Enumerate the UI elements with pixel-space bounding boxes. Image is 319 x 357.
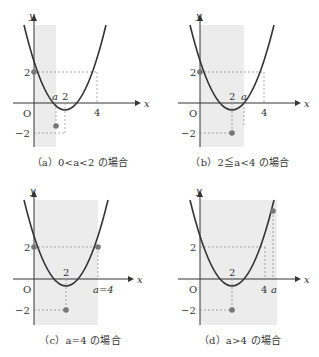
svg-text:O: O — [23, 108, 31, 119]
svg-text:4: 4 — [261, 284, 267, 295]
svg-text:4: 4 — [261, 107, 267, 118]
svg-text:2: 2 — [24, 242, 30, 253]
svg-text:2: 2 — [63, 267, 69, 278]
shaded-range — [200, 25, 244, 147]
svg-text:−2: −2 — [15, 128, 30, 139]
svg-text:O: O — [23, 284, 31, 295]
svg-text:O: O — [189, 284, 197, 295]
graph-a: y x O 2 −2 a 2 4 — [0, 0, 160, 178]
svg-text:4: 4 — [94, 107, 100, 118]
svg-text:2: 2 — [229, 267, 235, 278]
graph-c: y x O 2 −2 2 a=4 — [0, 180, 160, 357]
svg-text:y: y — [195, 10, 202, 21]
svg-text:x: x — [137, 274, 143, 285]
svg-text:y: y — [195, 185, 202, 196]
svg-text:y: y — [29, 185, 36, 196]
panel-d: y x O 2 −2 2 4 a （d）a>4 の場合 — [160, 180, 319, 357]
svg-text:a: a — [241, 91, 247, 102]
caption-b: （b）2≦a<4 の場合 — [160, 154, 319, 169]
svg-text:2: 2 — [62, 91, 68, 102]
caption-a: （a）0<a<2 の場合 — [0, 154, 160, 169]
caption-c: （c）a=4 の場合 — [0, 332, 160, 347]
svg-text:x: x — [304, 98, 310, 109]
svg-text:−2: −2 — [181, 128, 196, 139]
svg-text:−2: −2 — [15, 305, 30, 316]
svg-text:y: y — [28, 10, 35, 21]
svg-text:−2: −2 — [181, 305, 196, 316]
shaded-range — [34, 25, 56, 147]
svg-text:a=4: a=4 — [93, 284, 114, 295]
graph-d: y x O 2 −2 2 4 a — [160, 180, 319, 357]
panel-a: y x O 2 −2 a 2 4 （a）0<a<2 の場合 — [0, 0, 160, 178]
panel-b: y x O 2 −2 2 a 4 （b）2≦a<4 の場合 — [160, 0, 319, 178]
svg-text:a: a — [52, 91, 58, 102]
shaded-range — [200, 200, 277, 325]
svg-text:O: O — [189, 108, 197, 119]
svg-text:2: 2 — [190, 242, 196, 253]
graph-b: y x O 2 −2 2 a 4 — [160, 0, 319, 178]
svg-text:2: 2 — [24, 67, 30, 78]
svg-text:2: 2 — [190, 67, 196, 78]
svg-text:a: a — [271, 284, 277, 295]
caption-d: （d）a>4 の場合 — [160, 332, 319, 347]
panel-c: y x O 2 −2 2 a=4 （c）a=4 の場合 — [0, 180, 160, 357]
svg-text:2: 2 — [229, 91, 235, 102]
svg-text:x: x — [304, 274, 310, 285]
svg-text:x: x — [144, 98, 150, 109]
